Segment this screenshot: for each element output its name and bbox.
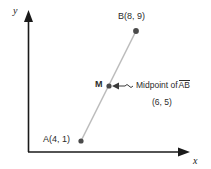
midpoint-leader-line — [112, 83, 133, 90]
midpoint-annotation-text: Midpoint ofAB — [136, 80, 190, 90]
y-axis-label: y — [13, 6, 17, 16]
point-m-marker — [106, 83, 111, 88]
point-m-label: M — [95, 80, 103, 89]
x-axis-arrowhead-icon — [178, 148, 190, 157]
point-b-marker — [133, 28, 139, 34]
midpoint-diagram: y x B(8, 9) A(4, 1) M Midpoint ofAB (6, … — [0, 0, 211, 169]
midpoint-coordinates-label: (6, 5) — [152, 98, 172, 107]
point-a-marker — [78, 138, 83, 143]
point-b-label: B(8, 9) — [118, 12, 145, 21]
y-axis-arrowhead-icon — [24, 10, 33, 22]
midpoint-annotation-prefix: Midpoint of — [136, 80, 178, 90]
x-axis-label: x — [193, 156, 197, 166]
point-a-label: A(4, 1) — [43, 135, 70, 144]
segment-ab-overline-label: AB — [179, 80, 190, 90]
